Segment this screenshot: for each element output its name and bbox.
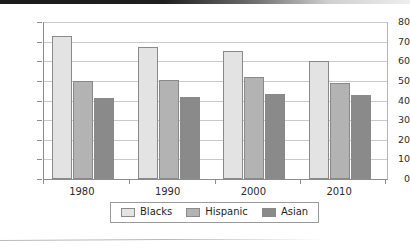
- y-axis-tick-mark: [37, 159, 42, 160]
- legend-swatch-icon: [186, 208, 200, 217]
- x-axis-tick-mark: [129, 179, 130, 184]
- bar-asian-2000: [265, 94, 285, 179]
- gridline: [44, 42, 387, 43]
- y-axis-tick-mark: [37, 101, 42, 102]
- y-axis-tick-label: 0: [376, 174, 410, 184]
- gridline: [44, 22, 387, 23]
- scan-artifact-bottom-rule: [0, 239, 410, 242]
- legend-swatch-icon: [262, 208, 276, 217]
- y-axis-tick-label: 30: [376, 115, 410, 125]
- bar-asian-1980: [94, 98, 114, 179]
- y-axis-tick-label: 60: [376, 56, 410, 66]
- y-axis-tick-mark: [37, 120, 42, 121]
- y-axis-tick-label: 20: [376, 135, 410, 145]
- bar-hispanic-2000: [244, 77, 264, 179]
- x-axis-tick-mark: [215, 179, 216, 184]
- legend-label: Blacks: [140, 207, 172, 217]
- legend-swatch-icon: [121, 208, 135, 217]
- x-axis-tick-label: 1980: [69, 187, 94, 197]
- y-axis-tick-label: 70: [376, 37, 410, 47]
- bar-blacks-1990: [138, 47, 158, 179]
- x-axis-tick-mark: [43, 179, 44, 184]
- y-axis-tick-mark: [37, 42, 42, 43]
- y-axis-tick-label: 40: [376, 96, 410, 106]
- legend-entry-blacks: Blacks: [121, 207, 172, 217]
- y-axis-tick-mark: [37, 61, 42, 62]
- y-axis-tick-mark: [37, 140, 42, 141]
- y-axis-tick-mark: [37, 81, 42, 82]
- x-axis-tick-label: 2000: [241, 187, 266, 197]
- legend-entry-hispanic: Hispanic: [186, 207, 248, 217]
- grouped-bar-chart: BlacksHispanicAsian 80706050403020100198…: [0, 6, 410, 234]
- bar-asian-2010: [351, 95, 371, 179]
- bar-blacks-2010: [309, 61, 329, 179]
- y-axis-tick-label: 10: [376, 154, 410, 164]
- gridline: [44, 81, 387, 82]
- x-axis-tick-mark: [385, 179, 386, 184]
- gridline: [44, 61, 387, 62]
- x-axis-tick-label: 1990: [155, 187, 180, 197]
- bar-hispanic-1980: [73, 81, 93, 179]
- legend-entry-asian: Asian: [262, 207, 308, 217]
- bar-hispanic-1990: [159, 80, 179, 179]
- x-axis-tick-mark: [300, 179, 301, 184]
- bar-hispanic-2010: [330, 83, 350, 179]
- bar-blacks-1980: [52, 36, 72, 179]
- bar-blacks-2000: [223, 51, 243, 179]
- y-axis-tick-label: 50: [376, 76, 410, 86]
- bar-asian-1990: [180, 97, 200, 179]
- legend-label: Hispanic: [205, 207, 248, 217]
- y-axis-tick-mark: [37, 22, 42, 23]
- x-axis-tick-label: 2010: [326, 187, 351, 197]
- plot-area: [43, 22, 388, 180]
- y-axis-tick-label: 80: [376, 17, 410, 27]
- y-axis-tick-mark: [37, 179, 42, 180]
- scan-artifact-top-band: [0, 0, 410, 4]
- legend-label: Asian: [281, 207, 308, 217]
- chart-legend: BlacksHispanicAsian: [110, 202, 319, 223]
